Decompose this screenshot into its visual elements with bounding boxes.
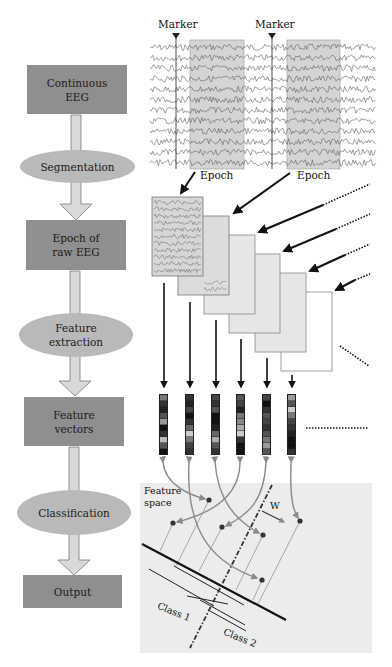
diagram: ContinuousEEG Segmentation Epoch ofraw E… — [0, 0, 392, 667]
right-graphics-layer — [0, 0, 392, 667]
epoch-label-2: Epoch — [297, 169, 330, 181]
marker-triangle-icon — [172, 33, 180, 39]
marker-label-1: Marker — [158, 18, 198, 30]
eeg-traces — [150, 44, 375, 166]
feature-vectors — [159, 394, 296, 455]
feature-space-title: Feature space — [144, 485, 181, 509]
marker-triangle-icon — [268, 33, 276, 39]
marker-label-2: Marker — [255, 18, 295, 30]
epoch-label-1: Epoch — [200, 169, 233, 181]
feature-space-title-line: space — [144, 497, 181, 509]
weight-label: W — [270, 500, 280, 511]
feature-space-title-line: Feature — [144, 485, 181, 497]
